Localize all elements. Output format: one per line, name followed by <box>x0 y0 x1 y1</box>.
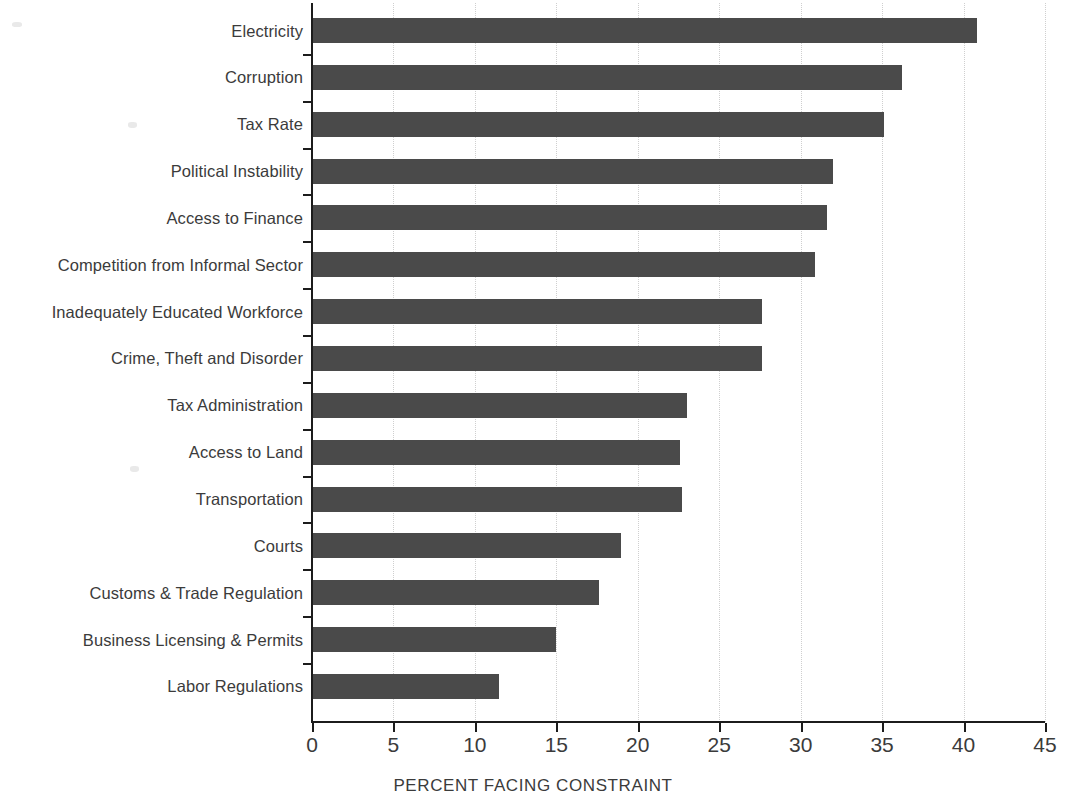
category-label: Access to Finance <box>0 210 303 227</box>
gridline <box>964 3 965 722</box>
category-label: Corruption <box>0 69 303 86</box>
category-label: Courts <box>0 538 303 555</box>
x-axis-title: PERCENT FACING CONSTRAINT <box>0 777 1066 794</box>
x-axis-tick <box>801 723 803 732</box>
y-axis-tick <box>303 476 312 478</box>
category-axis-labels: ElectricityCorruptionTax RatePolitical I… <box>0 0 303 722</box>
category-label: Electricity <box>0 23 303 40</box>
y-axis-line <box>311 3 313 722</box>
category-label: Business Licensing & Permits <box>0 632 303 649</box>
bar <box>312 205 827 230</box>
x-axis-tick <box>393 723 395 732</box>
x-axis-tick-label: 20 <box>608 734 668 755</box>
horizontal-bar-chart: ElectricityCorruptionTax RatePolitical I… <box>0 0 1066 810</box>
y-axis-tick <box>303 288 312 290</box>
category-label: Access to Land <box>0 444 303 461</box>
y-axis-tick <box>303 54 312 56</box>
x-axis-line <box>311 721 1045 723</box>
bar <box>312 346 762 371</box>
category-label: Political Instability <box>0 163 303 180</box>
bar <box>312 299 762 324</box>
y-axis-tick <box>303 148 312 150</box>
y-axis-tick <box>303 382 312 384</box>
bar <box>312 580 599 605</box>
category-label: Crime, Theft and Disorder <box>0 350 303 367</box>
y-axis-tick <box>303 663 312 665</box>
bar <box>312 252 815 277</box>
x-axis-tick <box>1045 723 1047 732</box>
x-axis-tick-label: 35 <box>852 734 912 755</box>
bar <box>312 18 977 43</box>
category-label: Tax Rate <box>0 116 303 133</box>
bar <box>312 112 884 137</box>
bar <box>312 159 833 184</box>
y-axis-tick <box>303 335 312 337</box>
gridline <box>1045 3 1046 722</box>
bar <box>312 674 499 699</box>
plot-area <box>312 3 1045 722</box>
y-axis-tick <box>303 569 312 571</box>
category-label: Customs & Trade Regulation <box>0 585 303 602</box>
category-label: Inadequately Educated Workforce <box>0 304 303 321</box>
x-axis-tick <box>638 723 640 732</box>
x-axis-tick-label: 10 <box>445 734 505 755</box>
bar <box>312 393 687 418</box>
bar <box>312 533 621 558</box>
bar <box>312 487 682 512</box>
y-axis-tick <box>303 194 312 196</box>
x-axis-tick <box>556 723 558 732</box>
category-label: Tax Administration <box>0 397 303 414</box>
bar <box>312 440 680 465</box>
x-axis-tick <box>719 723 721 732</box>
bar <box>312 627 556 652</box>
x-axis-tick <box>882 723 884 732</box>
x-axis-tick-label: 30 <box>771 734 831 755</box>
x-axis-tick <box>312 723 314 732</box>
x-axis-tick <box>964 723 966 732</box>
y-axis-tick <box>303 429 312 431</box>
x-axis-tick-label: 40 <box>934 734 994 755</box>
x-axis-tick <box>475 723 477 732</box>
x-axis-tick-label: 0 <box>282 734 342 755</box>
x-axis-tick-label: 15 <box>526 734 586 755</box>
x-axis-tick-label: 45 <box>1015 734 1066 755</box>
y-axis-tick <box>303 241 312 243</box>
x-axis-tick-label: 25 <box>689 734 749 755</box>
category-label: Transportation <box>0 491 303 508</box>
y-axis-tick <box>303 616 312 618</box>
category-label: Labor Regulations <box>0 678 303 695</box>
category-label: Competition from Informal Sector <box>0 257 303 274</box>
bar <box>312 65 902 90</box>
y-axis-tick <box>303 522 312 524</box>
y-axis-tick <box>303 101 312 103</box>
x-axis-tick-label: 5 <box>363 734 423 755</box>
